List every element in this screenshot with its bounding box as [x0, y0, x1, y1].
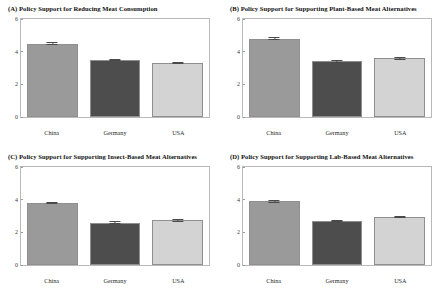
bar-usa: [152, 220, 203, 265]
xlabel-germany: Germany: [311, 277, 362, 284]
bar-germany: [90, 60, 141, 117]
error-bar-cap-bottom: [109, 60, 120, 61]
bar-china: [249, 39, 300, 117]
panel-c-plot: 0246 ChinaGermanyUSA: [0, 164, 218, 296]
bar-germany: [312, 61, 363, 117]
error-bar: [394, 57, 405, 59]
bar-slot: [374, 19, 425, 117]
panel-b-xlabels: ChinaGermanyUSA: [242, 129, 432, 136]
error-bar-cap-top: [394, 216, 405, 217]
panel-c-ytick: 2: [15, 229, 21, 235]
panel-a: (A) Policy Support for Reducing Meat Con…: [0, 0, 222, 148]
error-bar: [394, 216, 405, 219]
panel-a-bars: [21, 19, 209, 117]
xlabel-usa: USA: [375, 277, 426, 284]
error-bar: [47, 42, 58, 44]
panel-c-bars: [21, 167, 209, 265]
error-bar-cap-bottom: [331, 221, 342, 222]
xlabel-usa: USA: [153, 129, 204, 136]
panel-b-bars: [243, 19, 431, 117]
panel-b-ytick: 4: [237, 49, 243, 55]
panel-b-plot: 0246 ChinaGermanyUSA: [222, 16, 440, 148]
xlabel-china: China: [248, 129, 299, 136]
xlabel-china: China: [26, 129, 77, 136]
xlabel-germany: Germany: [89, 277, 140, 284]
error-bar-cap-bottom: [269, 202, 280, 203]
error-bar: [172, 219, 183, 222]
panel-b-ytick: 2: [237, 81, 243, 87]
tick-mark: [21, 265, 23, 266]
tick-mark: [243, 199, 245, 200]
bar-slot: [27, 167, 78, 265]
error-bar: [331, 60, 342, 62]
panel-c-title: (C) Policy Support for Supporting Insect…: [8, 153, 197, 160]
error-bar-cap-bottom: [394, 59, 405, 60]
error-bar: [331, 220, 342, 222]
tick-mark: [243, 265, 245, 266]
panel-d-xlabels: ChinaGermanyUSA: [242, 277, 432, 284]
bar-slot: [90, 19, 141, 117]
bar-slot: [312, 19, 363, 117]
panel-c-xlabels: ChinaGermanyUSA: [20, 277, 210, 284]
error-bar-cap-top: [47, 202, 58, 203]
panel-a-ytick: 2: [15, 81, 21, 87]
panel-c-axes: 0246: [20, 166, 210, 266]
tick-mark: [243, 84, 245, 85]
bar-germany: [312, 221, 363, 265]
bar-germany: [90, 223, 141, 265]
error-bar: [47, 202, 58, 205]
panel-d: (D) Policy Support for Supporting Lab-Ba…: [222, 148, 444, 296]
panel-a-ytick: 4: [15, 49, 21, 55]
panel-d-axes: 0246: [242, 166, 432, 266]
bar-slot: [374, 167, 425, 265]
panel-c-ytick: 4: [15, 197, 21, 203]
panel-d-ytick: 6: [237, 164, 243, 170]
tick-mark: [21, 51, 23, 52]
error-bar: [172, 62, 183, 64]
tick-mark: [21, 232, 23, 233]
tick-mark: [21, 84, 23, 85]
error-bar-cap-bottom: [394, 217, 405, 218]
panel-d-ytick: 4: [237, 197, 243, 203]
panel-b-axes: 0246: [242, 18, 432, 118]
error-bar-cap-top: [172, 219, 183, 220]
bar-slot: [152, 19, 203, 117]
panel-d-bars: [243, 167, 431, 265]
xlabel-germany: Germany: [89, 129, 140, 136]
bar-usa: [152, 63, 203, 117]
panel-d-ytick: 2: [237, 229, 243, 235]
bar-slot: [90, 167, 141, 265]
error-bar-cap-bottom: [172, 221, 183, 222]
tick-mark: [21, 117, 23, 118]
tick-mark: [243, 167, 245, 168]
bar-china: [27, 203, 78, 265]
tick-mark: [21, 199, 23, 200]
xlabel-germany: Germany: [311, 129, 362, 136]
panel-d-plot: 0246 ChinaGermanyUSA: [222, 164, 440, 296]
xlabel-usa: USA: [153, 277, 204, 284]
tick-mark: [243, 232, 245, 233]
panel-d-ytick: 0: [237, 262, 243, 268]
error-bar: [269, 37, 280, 39]
error-bar: [109, 221, 120, 223]
bar-slot: [249, 167, 300, 265]
error-bar-cap-top: [269, 200, 280, 201]
tick-mark: [243, 51, 245, 52]
panel-b-ytick: 6: [237, 16, 243, 22]
panel-d-title: (D) Policy Support for Supporting Lab-Ba…: [230, 153, 413, 160]
bar-usa: [374, 58, 425, 117]
panel-b-ytick: 0: [237, 114, 243, 120]
error-bar: [269, 200, 280, 203]
bar-slot: [152, 167, 203, 265]
error-bar-cap-bottom: [47, 44, 58, 45]
xlabel-usa: USA: [375, 129, 426, 136]
figure-panel-grid: (A) Policy Support for Reducing Meat Con…: [0, 0, 444, 296]
bar-usa: [374, 217, 425, 265]
error-bar-cap-bottom: [331, 62, 342, 63]
error-bar-cap-bottom: [109, 223, 120, 224]
tick-mark: [21, 19, 23, 20]
error-bar-cap-bottom: [269, 39, 280, 40]
bar-china: [249, 201, 300, 265]
tick-mark: [243, 117, 245, 118]
bar-china: [27, 44, 78, 118]
